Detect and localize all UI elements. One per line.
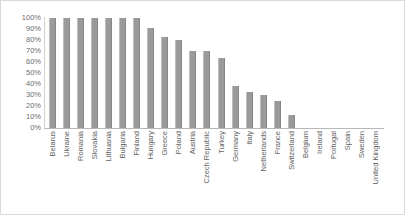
bar (203, 51, 210, 128)
y-axis-tick-label: 50% (1, 69, 41, 77)
x-axis-tick-label: Czech Republic (202, 131, 211, 184)
y-axis-tick-label: 80% (1, 36, 41, 44)
bar (63, 18, 70, 128)
y-axis-tick-label: 90% (1, 25, 41, 33)
x-axis-tick-label: Austria (188, 131, 197, 154)
bar (232, 86, 239, 128)
bar (105, 18, 112, 128)
bar (119, 18, 126, 128)
x-axis-tick-label: Ireland (315, 131, 324, 154)
x-axis-tick-label: Romania (76, 131, 85, 161)
x-axis-tick-label: Ukraine (62, 131, 71, 157)
y-axis-tick-label: 100% (1, 14, 41, 22)
x-axis: BelarusUkraineRomaniaSlovakiaLithuaniaBu… (45, 131, 383, 215)
x-axis-tick-label: France (273, 131, 282, 154)
bar (260, 95, 267, 128)
y-axis-tick-label: 10% (1, 113, 41, 121)
bar (91, 18, 98, 128)
bar (246, 92, 253, 128)
x-axis-tick-label: Slovakia (90, 131, 99, 159)
bar (161, 37, 168, 128)
y-axis-tick-label: 30% (1, 91, 41, 99)
bar (274, 101, 281, 129)
y-axis-tick-label: 0% (1, 124, 41, 132)
x-axis-tick-label: Bulgaria (118, 131, 127, 159)
x-axis-tick-label: Hungary (146, 131, 155, 159)
bar (49, 18, 56, 128)
y-axis-tick-label: 70% (1, 47, 41, 55)
bar (189, 51, 196, 128)
x-axis-tick-label: Turkey (217, 131, 226, 154)
x-axis-tick-label: Greece (160, 131, 169, 156)
bar-series (45, 18, 383, 128)
x-axis-tick-label: Sweden (357, 131, 366, 158)
x-axis-tick-label: United Kingdom (371, 131, 380, 184)
bar-chart: 100%90%80%70%60%50%40%30%20%10%0% Belaru… (0, 0, 405, 215)
x-axis-tick-label: Switzerland (287, 131, 296, 170)
y-axis-tick-label: 60% (1, 58, 41, 66)
x-axis-tick-label: Germany (231, 131, 240, 162)
y-axis: 100%90%80%70%60%50%40%30%20%10%0% (1, 18, 41, 128)
x-axis-tick-label: Finland (132, 131, 141, 156)
x-axis-tick-label: Spain (343, 131, 352, 150)
y-axis-tick-label: 20% (1, 102, 41, 110)
y-axis-tick-label: 40% (1, 80, 41, 88)
x-axis-tick-label: Belgium (301, 131, 310, 158)
x-axis-tick-label: Italy (245, 131, 254, 145)
bar (147, 28, 154, 128)
x-axis-tick-label: Portugal (329, 131, 338, 159)
x-axis-tick-label: Poland (174, 131, 183, 154)
x-axis-tick-label: Lithuania (104, 131, 113, 161)
bar (175, 40, 182, 128)
bar (288, 115, 295, 128)
bar (77, 18, 84, 128)
x-axis-tick-label: Netherlands (259, 131, 268, 171)
bar (218, 58, 225, 128)
x-axis-line (44, 128, 384, 129)
x-axis-tick-label: Belarus (48, 131, 57, 156)
bar (133, 18, 140, 128)
